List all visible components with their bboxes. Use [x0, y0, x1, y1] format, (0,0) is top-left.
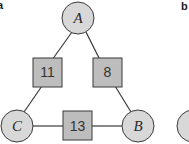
weight-box-cb-label: 13 — [70, 118, 86, 134]
edge-11-c — [24, 86, 42, 112]
weight-box-ac-label: 11 — [40, 64, 55, 80]
panel-b-partial-node — [177, 110, 189, 142]
triangle-graph-diagram: a b A 11 8 C 13 B — [0, 0, 189, 144]
panel-label-a: a — [0, 0, 4, 11]
weight-box-ab-label: 8 — [104, 64, 112, 80]
panel-label-b: b — [181, 0, 188, 12]
weight-box-ac: 11 — [33, 58, 62, 87]
edge-8-b — [115, 86, 131, 112]
node-b: B — [122, 110, 154, 142]
node-a-label: A — [72, 10, 83, 26]
weight-box-cb: 13 — [63, 111, 92, 140]
node-c: C — [1, 110, 33, 142]
node-c-label: C — [12, 118, 23, 134]
edge-a-11 — [52, 32, 72, 60]
edge-a-8 — [86, 32, 100, 60]
node-a: A — [62, 2, 94, 34]
node-b-label: B — [133, 118, 142, 134]
weight-box-ab: 8 — [93, 58, 122, 87]
